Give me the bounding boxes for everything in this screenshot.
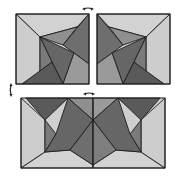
dissection-diagram <box>0 0 175 177</box>
arrow-left-middle <box>10 83 13 97</box>
square-left <box>16 14 89 84</box>
arrow-top-center <box>82 8 94 11</box>
rectangle-combined <box>21 98 165 168</box>
arrow-bottom-center <box>83 93 95 96</box>
square-right <box>97 14 170 84</box>
